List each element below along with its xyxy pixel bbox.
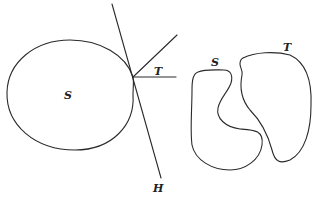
- label-region-t-right: T: [283, 41, 292, 54]
- supporting-line-h: [112, 4, 161, 178]
- left-figure: S T H: [7, 4, 177, 195]
- right-figure: S T: [191, 41, 311, 170]
- diagram-canvas: S T H S T: [0, 0, 318, 200]
- label-line-h: H: [152, 182, 164, 195]
- label-cone-t: T: [154, 65, 163, 78]
- nonconvex-region-s: [191, 70, 262, 170]
- label-region-s: S: [64, 89, 72, 102]
- nonconvex-region-t: [240, 53, 311, 162]
- label-region-s-right: S: [211, 56, 219, 69]
